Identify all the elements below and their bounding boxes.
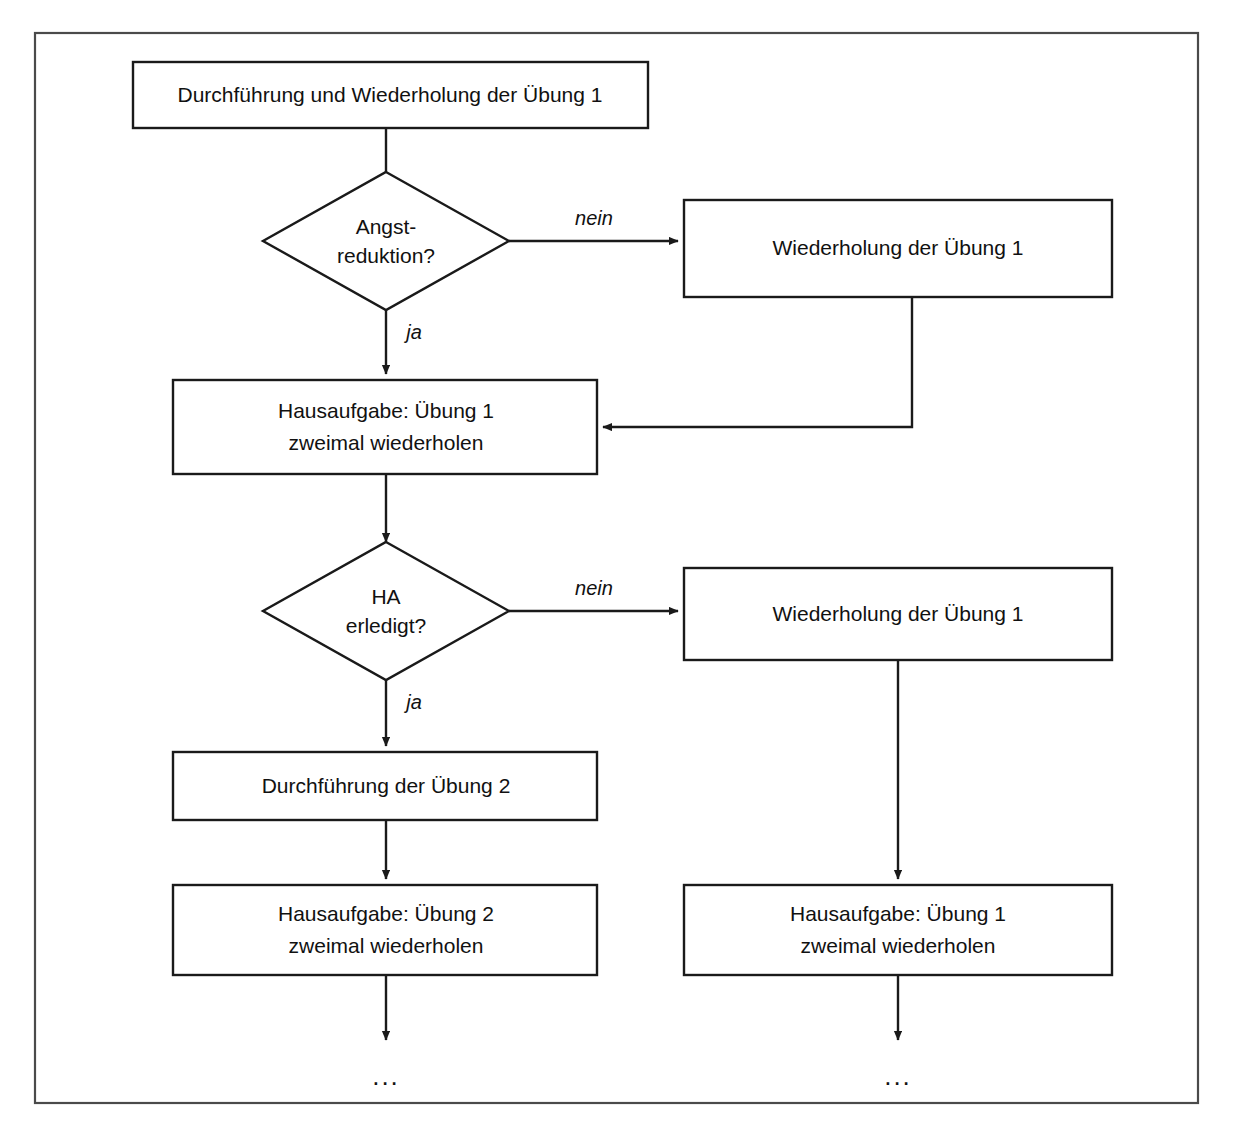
node-hausaufgabe-uebung1-bottom[interactable]: Hausaufgabe: Übung 1 zweimal wiederholen [684, 885, 1112, 975]
node-hausaufgabe-uebung1-top[interactable]: Hausaufgabe: Übung 1 zweimal wiederholen [173, 380, 597, 474]
node-box [684, 885, 1112, 975]
decision-label-line2: erledigt? [346, 614, 427, 637]
node-hausaufgabe-uebung2[interactable]: Hausaufgabe: Übung 2 zweimal wiederholen [173, 885, 597, 975]
decision-ha-erledigt[interactable]: HA erledigt? [263, 542, 509, 680]
node-label-line2: zweimal wiederholen [289, 431, 484, 454]
node-label-line1: Hausaufgabe: Übung 1 [278, 399, 494, 422]
edge-label-ja-angst: ja [403, 321, 422, 343]
node-label-line2: zweimal wiederholen [289, 934, 484, 957]
decision-label-line2: reduktion? [337, 244, 435, 267]
node-wiederholung-uebung1-mid[interactable]: Wiederholung der Übung 1 [684, 568, 1112, 660]
edge-label-nein-angst: nein [575, 207, 613, 229]
node-label: Durchführung der Übung 2 [262, 774, 511, 797]
ellipsis-left: ... [372, 1061, 400, 1091]
node-label-line1: Hausaufgabe: Übung 2 [278, 902, 494, 925]
node-box [173, 885, 597, 975]
connector-wiederholung1-to-hausaufgabe1 [603, 297, 912, 427]
node-label: Durchführung und Wiederholung der Übung … [178, 83, 603, 106]
decision-diamond [263, 172, 509, 310]
node-label: Wiederholung der Übung 1 [773, 236, 1024, 259]
node-label-line1: Hausaufgabe: Übung 1 [790, 902, 1006, 925]
edge-label-ja-ha: ja [403, 691, 422, 713]
node-label: Wiederholung der Übung 1 [773, 602, 1024, 625]
ellipsis-right: ... [884, 1061, 912, 1091]
flowchart-page: Durchführung und Wiederholung der Übung … [0, 0, 1234, 1133]
decision-label-line1: HA [371, 585, 400, 608]
node-wiederholung-uebung1-top[interactable]: Wiederholung der Übung 1 [684, 200, 1112, 297]
node-durchfuehrung-uebung2[interactable]: Durchführung der Übung 2 [173, 752, 597, 820]
node-label-line2: zweimal wiederholen [801, 934, 996, 957]
decision-angstreduktion[interactable]: Angst- reduktion? [263, 172, 509, 310]
node-box [173, 380, 597, 474]
node-durchfuehrung-wiederholung-uebung1[interactable]: Durchführung und Wiederholung der Übung … [133, 62, 648, 128]
decision-label-line1: Angst- [356, 215, 417, 238]
flowchart-canvas: Durchführung und Wiederholung der Übung … [0, 0, 1234, 1133]
edge-label-nein-ha: nein [575, 577, 613, 599]
decision-diamond [263, 542, 509, 680]
